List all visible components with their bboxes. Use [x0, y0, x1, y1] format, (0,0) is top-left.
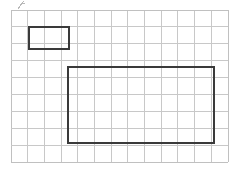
- grid-and-shapes-svg: [0, 0, 239, 171]
- grid-lines: [11, 10, 228, 162]
- pencil-mark: [18, 1, 25, 9]
- stray-marks: [18, 1, 25, 9]
- large-rectangle: [68, 67, 214, 143]
- small-rectangle: [29, 27, 69, 49]
- worksheet-canvas: [0, 0, 239, 171]
- drawn-shapes: [29, 27, 214, 143]
